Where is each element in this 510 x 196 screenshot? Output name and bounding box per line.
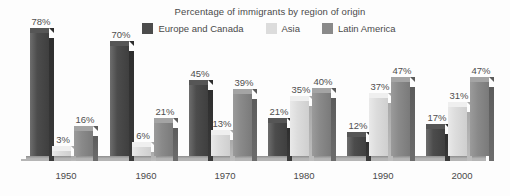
bar-value-label: 6%	[129, 130, 157, 141]
bar-column[interactable]: 47%	[391, 82, 410, 156]
bar-side-face	[489, 87, 494, 161]
bar-asia-1990[interactable]: 37%	[369, 98, 388, 156]
bar-group-bars: 12%37%47%	[347, 82, 410, 156]
x-axis-label-1970: 1970	[189, 170, 261, 181]
bar-value-label: 31%	[445, 90, 473, 101]
bar-latin-america-1990[interactable]: 47%	[391, 82, 410, 156]
bar-front-face	[132, 147, 151, 156]
bar-value-label: 47%	[467, 65, 495, 76]
bar-front-face	[470, 82, 489, 156]
bar-value-label: 21%	[151, 106, 179, 117]
bar-front-face	[426, 129, 445, 156]
bar-front-face	[233, 94, 252, 156]
bar-value-label: 37%	[366, 81, 394, 92]
bar-europe-and-canada-2000[interactable]: 17%	[426, 129, 445, 156]
bar-column[interactable]: 21%	[154, 123, 173, 156]
bar-asia-1960[interactable]: 6%	[132, 147, 151, 156]
bar-top-face	[189, 80, 208, 85]
bar-top-face	[233, 89, 252, 94]
bar-side-face	[410, 87, 415, 161]
bar-column[interactable]: 12%	[347, 137, 366, 156]
bar-column[interactable]: 45%	[189, 85, 208, 156]
bar-front-face	[30, 33, 49, 156]
bar-column[interactable]: 13%	[211, 135, 230, 156]
bar-top-face	[110, 41, 129, 46]
bar-group-1990: 12%37%47%1990	[347, 0, 419, 196]
bar-europe-and-canada-1990[interactable]: 12%	[347, 137, 366, 156]
bar-europe-and-canada-1960[interactable]: 70%	[110, 46, 129, 156]
bar-top-face	[290, 96, 309, 101]
bar-top-face	[52, 146, 71, 151]
bar-top-face	[30, 28, 49, 33]
bar-europe-and-canada-1980[interactable]: 21%	[268, 123, 287, 156]
bar-front-face	[268, 123, 287, 156]
bar-column[interactable]: 70%	[110, 46, 129, 156]
bar-side-face	[93, 136, 98, 161]
bar-column[interactable]: 40%	[312, 93, 331, 156]
bar-europe-and-canada-1970[interactable]: 45%	[189, 85, 208, 156]
bar-value-label: 39%	[230, 77, 258, 88]
bar-column[interactable]: 35%	[290, 101, 309, 156]
bar-front-face	[290, 101, 309, 156]
bar-front-face	[391, 82, 410, 156]
x-axis-label-2000: 2000	[426, 170, 498, 181]
bar-asia-2000[interactable]: 31%	[448, 107, 467, 156]
bar-front-face	[369, 98, 388, 156]
bar-column[interactable]: 31%	[448, 107, 467, 156]
bar-top-face	[132, 142, 151, 147]
bar-side-face	[252, 99, 257, 161]
bar-column[interactable]: 47%	[470, 82, 489, 156]
bar-latin-america-1980[interactable]: 40%	[312, 93, 331, 156]
bar-value-label: 40%	[309, 76, 337, 87]
bar-front-face	[110, 46, 129, 156]
bar-value-label: 17%	[423, 112, 451, 123]
bar-top-face	[74, 126, 93, 131]
bar-value-label: 16%	[71, 114, 99, 125]
bar-side-face	[71, 156, 76, 161]
bar-group-1960: 70%6%21%1960	[110, 0, 182, 196]
x-axis-label-1990: 1990	[347, 170, 419, 181]
bar-latin-america-2000[interactable]: 47%	[470, 82, 489, 156]
bar-value-label: 70%	[107, 29, 135, 40]
bar-column[interactable]: 17%	[426, 129, 445, 156]
bar-group-bars: 45%13%39%	[189, 85, 252, 156]
bar-group-1970: 45%13%39%1970	[189, 0, 261, 196]
bar-column[interactable]: 37%	[369, 98, 388, 156]
bar-latin-america-1970[interactable]: 39%	[233, 94, 252, 156]
bar-value-label: 47%	[388, 65, 416, 76]
bar-top-face	[347, 132, 366, 137]
bar-column[interactable]: 6%	[132, 147, 151, 156]
bar-latin-america-1950[interactable]: 16%	[74, 131, 93, 156]
bar-asia-1970[interactable]: 13%	[211, 135, 230, 156]
bar-front-face	[154, 123, 173, 156]
bar-value-label: 21%	[265, 106, 293, 117]
bar-chart: Percentage of immigrants by region of or…	[0, 0, 510, 196]
bar-top-face	[211, 130, 230, 135]
bar-asia-1950[interactable]: 3%	[52, 151, 71, 156]
bar-group-1980: 21%35%40%1980	[268, 0, 340, 196]
bar-group-bars: 78%3%16%	[30, 33, 93, 156]
bar-group-2000: 17%31%47%2000	[426, 0, 498, 196]
bar-front-face	[189, 85, 208, 156]
bar-value-label: 12%	[344, 120, 372, 131]
bar-asia-1980[interactable]: 35%	[290, 101, 309, 156]
bar-column[interactable]: 39%	[233, 94, 252, 156]
bar-side-face	[331, 98, 336, 161]
bar-europe-and-canada-1950[interactable]: 78%	[30, 33, 49, 156]
bar-front-face	[211, 135, 230, 156]
bar-column[interactable]: 16%	[74, 131, 93, 156]
bar-column[interactable]: 3%	[52, 151, 71, 156]
bar-front-face	[347, 137, 366, 156]
bar-front-face	[74, 131, 93, 156]
bar-top-face	[312, 88, 331, 93]
x-axis-label-1980: 1980	[268, 170, 340, 181]
bar-top-face	[391, 77, 410, 82]
bar-group-bars: 70%6%21%	[110, 46, 173, 156]
bar-value-label: 13%	[208, 118, 236, 129]
bar-latin-america-1960[interactable]: 21%	[154, 123, 173, 156]
bar-column[interactable]: 21%	[268, 123, 287, 156]
bar-value-label: 3%	[49, 134, 77, 145]
bar-group-bars: 21%35%40%	[268, 93, 331, 156]
bar-value-label: 78%	[27, 16, 55, 27]
bar-column[interactable]: 78%	[30, 33, 49, 156]
